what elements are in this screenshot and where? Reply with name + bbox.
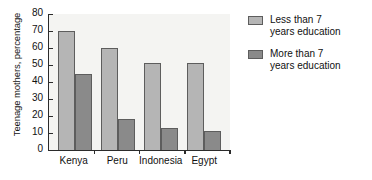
bar-egypt-series2 <box>204 131 221 150</box>
y-tick-label: 50 <box>32 58 43 69</box>
x-axis-tick-labels: KenyaPeruIndonesiaEgypt <box>48 155 230 166</box>
y-tick-label: 70 <box>32 24 43 35</box>
bar-peru-series2 <box>118 119 135 150</box>
legend-label-line2: years education <box>270 60 341 72</box>
legend-item-1: Less than 7years education <box>248 14 368 37</box>
y-tick-mark <box>49 82 53 84</box>
x-tick-label-egypt: Egypt <box>183 155 227 166</box>
x-tick-mark <box>184 150 186 154</box>
y-tick-mark <box>49 99 53 101</box>
x-tick-label-indonesia: Indonesia <box>139 155 183 166</box>
y-tick-label: 10 <box>32 126 43 137</box>
y-tick-label: 0 <box>37 143 43 154</box>
y-tick-label: 20 <box>32 109 43 120</box>
y-tick-mark <box>49 48 53 50</box>
plot-area: 01020304050607080 <box>48 14 230 151</box>
x-tick-mark <box>229 150 231 154</box>
bar-indonesia-series2 <box>161 128 178 150</box>
legend-label-line2: years education <box>270 26 341 38</box>
y-tick-label: 30 <box>32 92 43 103</box>
y-tick-mark <box>49 133 53 135</box>
x-tick-label-kenya: Kenya <box>52 155 96 166</box>
legend-label: Less than 7years education <box>270 14 341 37</box>
y-tick-mark <box>49 65 53 67</box>
y-tick-label: 40 <box>32 75 43 86</box>
y-tick-mark <box>49 116 53 118</box>
bar-indonesia-series1 <box>144 63 161 150</box>
y-tick-mark <box>49 14 53 16</box>
y-tick-label: 60 <box>32 41 43 52</box>
legend-item-2: More than 7years education <box>248 48 368 71</box>
y-tick-mark <box>49 150 53 152</box>
bar-group <box>58 14 92 150</box>
bar-group <box>144 14 178 150</box>
y-tick-mark <box>49 31 53 33</box>
bar-peru-series1 <box>101 48 118 150</box>
x-tick-label-peru: Peru <box>96 155 140 166</box>
bar-group <box>187 14 221 150</box>
legend-swatch-light-gray <box>248 16 263 25</box>
bar-groups <box>49 14 230 150</box>
legend-swatch-dark-gray <box>248 50 263 59</box>
legend-label-line1: More than 7 <box>270 48 323 59</box>
legend-label-line1: Less than 7 <box>270 14 322 25</box>
y-tick-label: 80 <box>32 7 43 18</box>
legend-label: More than 7years education <box>270 48 341 71</box>
chart-legend: Less than 7years educationMore than 7yea… <box>248 14 368 82</box>
bar-chart-figure: Teenage mothers, percentage 010203040506… <box>0 0 372 180</box>
bar-kenya-series1 <box>58 31 75 150</box>
x-tick-mark <box>94 150 96 154</box>
bar-egypt-series1 <box>187 63 204 150</box>
bar-group <box>101 14 135 150</box>
x-tick-mark <box>139 150 141 154</box>
y-axis-title: Teenage mothers, percentage <box>11 5 22 145</box>
bar-kenya-series2 <box>75 74 92 151</box>
